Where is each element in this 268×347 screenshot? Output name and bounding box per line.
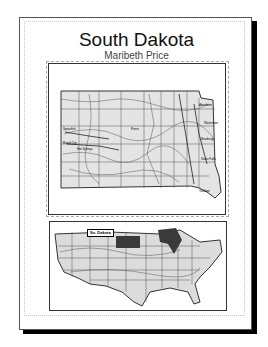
- map-author[interactable]: Maribeth Price: [20, 50, 253, 61]
- us-locator-map: [50, 222, 226, 310]
- svg-text:Aberdeen: Aberdeen: [199, 103, 212, 107]
- main-map-frame[interactable]: SpearfishRapid CityHot Springs PierreAbe…: [48, 63, 226, 215]
- inset-map-label: So. Dakota: [87, 229, 114, 237]
- svg-text:Spearfish: Spearfish: [63, 127, 76, 131]
- svg-text:Rapid City: Rapid City: [63, 141, 77, 145]
- map-title[interactable]: South Dakota: [20, 30, 253, 50]
- svg-text:Pierre: Pierre: [131, 127, 139, 131]
- svg-text:Sioux Falls: Sioux Falls: [201, 157, 216, 161]
- inset-locator-map-frame[interactable]: So. Dakota: [49, 221, 227, 311]
- svg-text:Hot Springs: Hot Springs: [77, 147, 93, 151]
- svg-text:Brookings: Brookings: [201, 137, 215, 141]
- south-dakota-map: SpearfishRapid CityHot Springs PierreAbe…: [49, 64, 225, 214]
- svg-text:Yankton: Yankton: [199, 189, 210, 193]
- layout-page: South Dakota Maribeth Price SpearfishRap…: [19, 17, 252, 330]
- svg-text:Watertown: Watertown: [204, 121, 219, 125]
- highlighted-state-south-dakota: [116, 236, 140, 248]
